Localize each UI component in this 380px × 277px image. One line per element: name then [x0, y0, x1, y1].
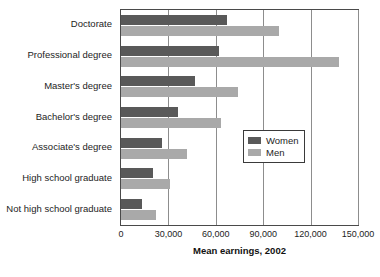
bar-men-5: [121, 179, 170, 189]
bar-women-4: [121, 138, 162, 148]
bar-men-0: [121, 26, 279, 36]
bar-men-3: [121, 118, 221, 128]
category-label: Associate's degree: [0, 142, 112, 152]
category-label: Not high school graduate: [0, 204, 112, 214]
bar-women-6: [121, 199, 142, 209]
plot-area: [120, 9, 359, 226]
bar-men-2: [121, 87, 238, 97]
category-label: Doctorate: [0, 19, 112, 29]
x-tick-label: 120,000: [294, 229, 327, 240]
legend-item: Men: [248, 147, 300, 158]
bar-women-5: [121, 168, 153, 178]
category-label: High school graduate: [0, 173, 112, 183]
bars-layer: [121, 10, 358, 225]
bar-men-1: [121, 57, 339, 67]
gridline: [358, 10, 359, 225]
x-axis-tick-labels: 030,00060,00090,000120,000150,000: [120, 229, 359, 241]
x-tick-label: 150,000: [342, 229, 375, 240]
legend-swatch-icon: [248, 137, 261, 144]
category-label: Master's degree: [0, 81, 112, 91]
bar-men-6: [121, 210, 156, 220]
category-axis-labels: DoctorateProfessional degreeMaster's deg…: [0, 9, 116, 226]
chart-legend: WomenMen: [243, 130, 305, 163]
bar-women-3: [121, 107, 178, 117]
x-tick-label: 0: [118, 229, 123, 240]
bar-women-0: [121, 15, 227, 25]
x-tick-label: 30,000: [155, 229, 183, 240]
x-tick-label: 60,000: [202, 229, 230, 240]
legend-swatch-icon: [248, 149, 261, 156]
category-label: Professional degree: [0, 50, 112, 60]
legend-label: Men: [266, 148, 284, 158]
category-label: Bachelor's degree: [0, 112, 112, 122]
bar-men-4: [121, 149, 187, 159]
bar-women-1: [121, 46, 219, 56]
legend-item: Women: [248, 135, 300, 146]
bar-women-2: [121, 76, 195, 86]
earnings-by-education-bar-chart: DoctorateProfessional degreeMaster's deg…: [0, 0, 380, 277]
x-axis-title: Mean earnings, 2002: [120, 245, 359, 256]
legend-label: Women: [266, 136, 299, 146]
x-tick-label: 90,000: [249, 229, 277, 240]
